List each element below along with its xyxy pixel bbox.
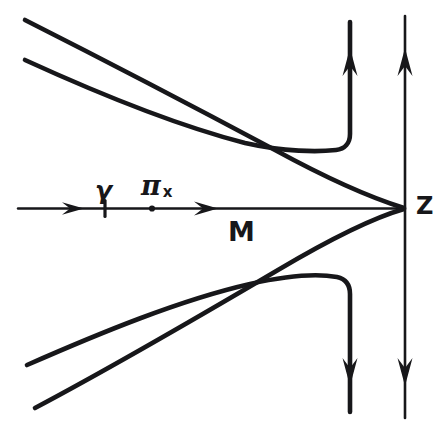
- label-pi-subscript: x: [163, 185, 173, 200]
- outer-vertical-axis-group: [398, 16, 413, 418]
- label-pi: π: [141, 172, 161, 199]
- label-m: M: [228, 218, 255, 245]
- label-z: Z: [416, 194, 433, 218]
- diagram-svg: [0, 0, 447, 432]
- pi-x-dot-marker: [149, 205, 155, 211]
- label-gamma: γ: [95, 178, 112, 203]
- curve-upper-outer: [25, 20, 404, 208]
- label-pi-x-group: π x: [141, 172, 172, 199]
- curve-lower-inner-with-hook: [27, 275, 350, 412]
- horizontal-axis-group: [18, 202, 404, 216]
- figure-canvas: γ π x M Z: [0, 0, 447, 432]
- curve-upper-inner-with-hook: [25, 22, 350, 151]
